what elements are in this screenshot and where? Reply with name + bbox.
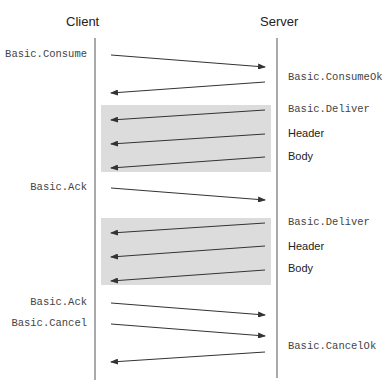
server-heading: Server <box>260 14 298 29</box>
message-arrow <box>111 303 265 315</box>
highlight-boxes <box>101 105 271 285</box>
message-label: Basic.Ack <box>30 181 87 193</box>
message-label: Basic.CancelOk <box>288 340 376 352</box>
message-label: Body <box>288 150 313 162</box>
message-arrow <box>111 188 265 200</box>
message-arrow <box>111 55 265 67</box>
message-arrow <box>111 352 265 362</box>
message-label: Basic.ConsumeOk <box>288 71 383 83</box>
message-label: Body <box>288 262 313 274</box>
message-label: Basic.Cancel <box>11 317 87 329</box>
client-heading: Client <box>66 14 99 29</box>
message-label: Basic.Deliver <box>288 103 370 115</box>
sequence-diagram: Client Server Basic.ConsumeBasic.Consume… <box>0 0 388 392</box>
message-label: Basic.Consume <box>5 48 87 60</box>
message-label: Basic.Ack <box>30 296 87 308</box>
message-label: Header <box>288 127 324 139</box>
message-arrow <box>111 324 265 336</box>
message-arrows <box>111 55 265 362</box>
message-label: Basic.Deliver <box>288 216 370 228</box>
message-label: Header <box>288 240 324 252</box>
message-arrow <box>111 82 265 93</box>
